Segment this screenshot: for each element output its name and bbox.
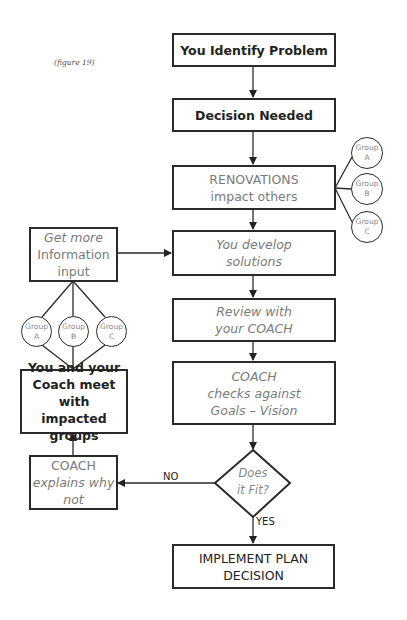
group-word: Group — [356, 143, 379, 153]
diamond-line: Does — [222, 465, 284, 482]
box-text: solutions — [226, 253, 282, 270]
group-letter: B — [364, 189, 369, 199]
group-word: Group — [62, 322, 85, 332]
coach-checks-box: COACH checks against Goals – Vision — [172, 361, 336, 425]
group-a-right: Group A — [351, 137, 383, 169]
box-text: Information — [37, 246, 109, 263]
no-label: NO — [163, 471, 178, 482]
group-letter: A — [364, 153, 369, 163]
box-text: impact others — [211, 188, 298, 205]
develop-solutions-box: You develop solutions — [172, 230, 336, 276]
diamond-line: it Fit? — [222, 482, 284, 499]
get-more-info-box: Get more Information input — [29, 227, 118, 282]
review-coach-box: Review with your COACH — [172, 298, 336, 342]
box-text: your COACH — [215, 320, 292, 337]
yes-label: YES — [256, 516, 275, 527]
box-text: Get more — [44, 229, 103, 246]
group-word: Group — [356, 217, 379, 227]
figure-caption: (figure 19) — [54, 58, 94, 67]
box-text: DECISION — [223, 567, 284, 584]
group-letter: B — [71, 332, 76, 342]
box-text: not — [63, 491, 83, 508]
meet-impacted-groups-box: You and your Coach meet with impacted gr… — [20, 369, 128, 434]
box-text: impacted groups — [22, 410, 126, 444]
group-letter: A — [34, 332, 39, 342]
box-text: IMPLEMENT PLAN — [199, 550, 308, 567]
group-word: Group — [356, 179, 379, 189]
does-it-fit-text: Does it Fit? — [222, 465, 284, 499]
box-text: Review with — [216, 303, 292, 320]
group-word: Group — [100, 322, 123, 332]
box-text: RENOVATIONS — [209, 171, 298, 188]
box-text: checks against — [207, 385, 300, 402]
group-c-right: Group C — [351, 211, 383, 243]
box-text: COACH — [231, 368, 276, 385]
box-text: explains why — [33, 474, 115, 491]
identify-problem-box: You Identify Problem — [172, 33, 336, 67]
decision-needed-box: Decision Needed — [172, 98, 336, 132]
box-text: COACH — [51, 457, 96, 474]
box-text: You Identify Problem — [180, 42, 328, 59]
group-b-right: Group B — [351, 173, 383, 205]
implement-plan-box: IMPLEMENT PLAN DECISION — [172, 544, 335, 589]
box-text: Coach meet with — [22, 376, 126, 410]
coach-explains-box: COACH explains why not — [29, 455, 118, 510]
group-letter: C — [364, 227, 369, 237]
box-text: You and your — [28, 359, 120, 376]
box-text: Decision Needed — [195, 107, 313, 124]
renovations-box: RENOVATIONS impact others — [172, 165, 336, 210]
box-text: You develop — [216, 236, 292, 253]
group-a-left: Group A — [21, 316, 52, 347]
group-word: Group — [25, 322, 48, 332]
group-c-left: Group C — [96, 316, 127, 347]
box-text: input — [57, 263, 89, 280]
group-b-left: Group B — [58, 316, 89, 347]
box-text: Goals – Vision — [211, 402, 298, 419]
group-letter: C — [109, 332, 114, 342]
